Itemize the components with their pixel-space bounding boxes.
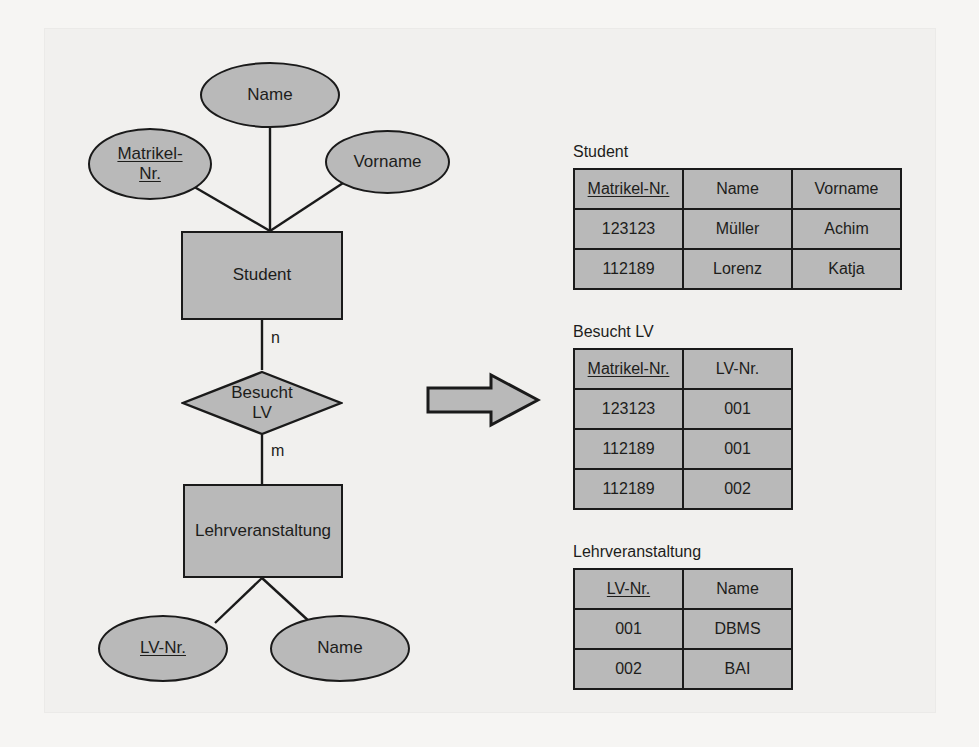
relation-table-besucht-lv: Matrikel-Nr. LV-Nr. 123123 001 112189 00… xyxy=(573,348,793,510)
cell: Katja xyxy=(792,249,901,289)
table-row: 123123 Müller Achim xyxy=(574,209,901,249)
cardinality-m: m xyxy=(271,442,284,460)
er-to-relational-figure: Name Matrikel- Nr. Vorname Student n Bes… xyxy=(0,0,979,747)
attribute-label-line2: Nr. xyxy=(139,164,161,183)
cell: BAI xyxy=(683,649,792,689)
cardinality-n: n xyxy=(271,329,280,347)
entity-student[interactable]: Student xyxy=(181,231,343,320)
table-header-row: LV-Nr. Name xyxy=(574,569,792,609)
cell: Achim xyxy=(792,209,901,249)
table-row: 001 DBMS xyxy=(574,609,792,649)
cell: 001 xyxy=(574,609,683,649)
table-row: 112189 001 xyxy=(574,429,792,469)
table-row: 112189 Lorenz Katja xyxy=(574,249,901,289)
cell: 112189 xyxy=(574,469,683,509)
entity-label: Lehrveranstaltung xyxy=(195,521,331,541)
relation-table-lehrveranstaltung: LV-Nr. Name 001 DBMS 002 BAI xyxy=(573,568,793,690)
attribute-student-matrikel-nr[interactable]: Matrikel- Nr. xyxy=(88,128,212,200)
cell: 002 xyxy=(574,649,683,689)
table-row: 002 BAI xyxy=(574,649,792,689)
cell: 123123 xyxy=(574,209,683,249)
table-header-row: Matrikel-Nr. Name Vorname xyxy=(574,169,901,209)
attribute-label: Name xyxy=(247,85,292,105)
attribute-lv-nr[interactable]: LV-Nr. xyxy=(98,615,228,682)
cell: Lorenz xyxy=(683,249,792,289)
attribute-label: LV-Nr. xyxy=(140,638,186,658)
table-caption-student: Student xyxy=(573,143,902,161)
table-block-lehrveranstaltung: Lehrveranstaltung LV-Nr. Name 001 DBMS 0… xyxy=(573,543,793,690)
cell: 123123 xyxy=(574,389,683,429)
column-header-lv-nr: LV-Nr. xyxy=(683,349,792,389)
cell: 112189 xyxy=(574,249,683,289)
table-caption-lehrveranstaltung: Lehrveranstaltung xyxy=(573,543,793,561)
column-header-matrikel-nr: Matrikel-Nr. xyxy=(574,169,683,209)
column-header-vorname: Vorname xyxy=(792,169,901,209)
cell: 001 xyxy=(683,389,792,429)
table-block-student: Student Matrikel-Nr. Name Vorname 123123… xyxy=(573,143,902,290)
cell: 002 xyxy=(683,469,792,509)
cell: DBMS xyxy=(683,609,792,649)
cell: 001 xyxy=(683,429,792,469)
relationship-besucht-lv[interactable]: Besucht LV xyxy=(181,370,343,436)
table-row: 112189 002 xyxy=(574,469,792,509)
entity-label: Student xyxy=(233,265,292,285)
table-row: 123123 001 xyxy=(574,389,792,429)
column-header-matrikel-nr: Matrikel-Nr. xyxy=(574,349,683,389)
column-header-name: Name xyxy=(683,569,792,609)
relationship-label-line1: Besucht xyxy=(231,383,292,402)
attribute-student-vorname[interactable]: Vorname xyxy=(325,130,450,194)
transforms-to-arrow xyxy=(425,372,541,428)
attribute-label: Name xyxy=(317,638,362,658)
cell: Müller xyxy=(683,209,792,249)
table-block-besucht-lv: Besucht LV Matrikel-Nr. LV-Nr. 123123 00… xyxy=(573,323,793,510)
column-header-lv-nr: LV-Nr. xyxy=(574,569,683,609)
table-caption-besucht-lv: Besucht LV xyxy=(573,323,793,341)
attribute-student-name[interactable]: Name xyxy=(200,62,340,128)
table-header-row: Matrikel-Nr. LV-Nr. xyxy=(574,349,792,389)
cell: 112189 xyxy=(574,429,683,469)
attribute-label: Vorname xyxy=(353,152,421,172)
attribute-lv-name[interactable]: Name xyxy=(270,615,410,682)
er-diagram: Name Matrikel- Nr. Vorname Student n Bes… xyxy=(45,29,935,712)
column-header-name: Name xyxy=(683,169,792,209)
relationship-label-line2: LV xyxy=(252,403,272,422)
relation-table-student: Matrikel-Nr. Name Vorname 123123 Müller … xyxy=(573,168,902,290)
entity-lehrveranstaltung[interactable]: Lehrveranstaltung xyxy=(183,484,343,578)
attribute-label-line1: Matrikel- xyxy=(117,144,182,163)
